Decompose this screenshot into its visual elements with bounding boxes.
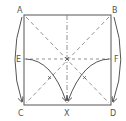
origami-fold-diagram: A B E F C X D <box>0 0 126 121</box>
label-A: A <box>17 6 23 15</box>
label-C: C <box>18 109 24 118</box>
arc-F-to-X <box>68 59 109 101</box>
label-E: E <box>16 55 21 64</box>
arc-E-to-X <box>26 59 66 101</box>
label-B: B <box>112 6 118 15</box>
fold-diagram-svg: A B E F C X D <box>0 0 126 121</box>
label-F: F <box>114 55 119 64</box>
label-D: D <box>110 109 116 118</box>
label-X: X <box>64 109 70 118</box>
cross-mark-right <box>83 76 86 79</box>
